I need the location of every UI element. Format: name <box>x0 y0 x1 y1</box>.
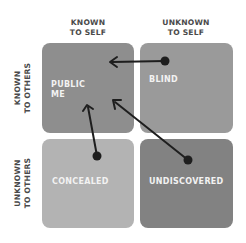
arrow-origin-dot <box>93 152 102 161</box>
arrow-concealed-to-public <box>83 105 102 161</box>
arrow-origin-dot <box>184 156 193 165</box>
arrows-layer <box>0 0 246 243</box>
arrow-shaft <box>88 107 97 156</box>
arrow-undiscovered-to-public <box>113 100 193 165</box>
arrow-blind-to-public <box>110 57 170 68</box>
arrow-origin-dot <box>161 57 170 66</box>
arrow-shaft <box>115 102 188 160</box>
arrow-shaft <box>112 61 165 62</box>
